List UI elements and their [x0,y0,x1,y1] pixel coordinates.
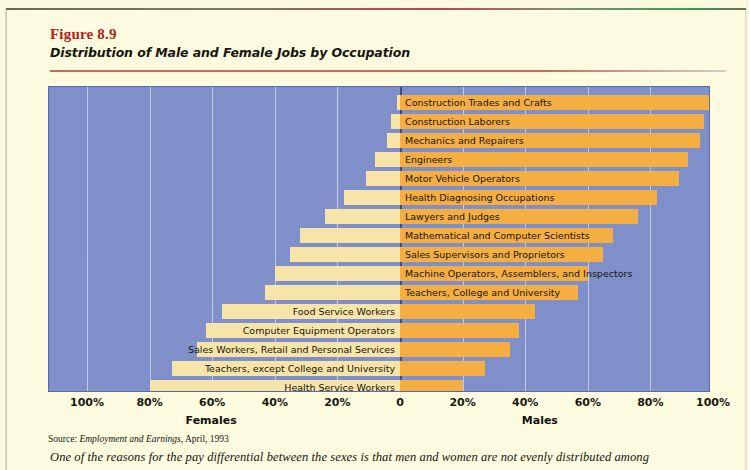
male-bar [400,323,519,338]
bar-category-label: Health Diagnosing Occupations [400,190,554,205]
chart-row: Engineers [49,150,709,169]
female-bar [366,171,400,186]
female-bar [344,190,400,205]
bar-category-label: Machine Operators, Assemblers, and Inspe… [400,266,632,281]
axis-label-males: Males [522,414,558,427]
top-decorative-rule [6,8,750,10]
chart-row: Lawyers and Judges [49,207,709,226]
chart-row: Construction Laborers [49,112,709,131]
figure-caption: One of the reasons for the pay different… [50,450,740,465]
chart-row: Sales Workers, Retail and Personal Servi… [49,340,709,359]
page-right-edge [746,0,750,470]
axis-label-females: Females [186,414,237,427]
chart-row: Machine Operators, Assemblers, and Inspe… [49,264,709,283]
bar-category-label: Sales Supervisors and Proprietors [400,247,565,262]
x-tick-f100: 100% [70,396,104,409]
chart-row: Construction Trades and Crafts [49,93,709,112]
male-bar [400,304,535,319]
x-tick-m80: 80% [637,396,663,409]
chart-row: Mechanics and Repairers [49,131,709,150]
female-bar [300,228,400,243]
female-bar [275,266,400,281]
x-tick-m40: 40% [512,396,538,409]
x-tick-f60: 60% [199,396,225,409]
bar-category-label: Teachers, College and University [400,285,560,300]
bar-category-label: Mechanics and Repairers [400,133,524,148]
chart-row: Sales Supervisors and Proprietors [49,245,709,264]
female-bar [265,285,400,300]
source-publication: Employment and Earnings, [79,434,183,444]
bar-category-label: Mathematical and Computer Scientists [400,228,590,243]
source-prefix: Source: [48,434,77,444]
x-tick-zero: 0 [396,396,404,409]
bar-category-label: Engineers [400,152,452,167]
x-tick-m60: 60% [575,396,601,409]
bar-category-label: Sales Workers, Retail and Personal Servi… [188,342,400,357]
chart-row: Food Service Workers [49,302,709,321]
male-bar [400,342,510,357]
bar-category-label: Health Service Workers [284,380,400,392]
bar-category-label: Teachers, except College and University [205,361,400,376]
bar-category-label: Food Service Workers [293,304,400,319]
female-bar [290,247,400,262]
figure-title: Distribution of Male and Female Jobs by … [50,45,410,60]
x-tick-f20: 20% [324,396,350,409]
bar-category-label: Motor Vehicle Operators [400,171,520,186]
x-axis-ticks: 100%80%60%40%20%020%40%60%80%100% [48,396,710,412]
female-bar [391,114,400,129]
chart-row: Computer Equipment Operators [49,321,709,340]
x-tick-m20: 20% [449,396,475,409]
chart-plot-area: Construction Trades and CraftsConstructi… [48,86,710,392]
male-bar [400,361,485,376]
chart-row: Mathematical and Computer Scientists [49,226,709,245]
female-bar [325,209,400,224]
chart-row: Health Service Workers [49,378,709,392]
x-tick-f40: 40% [262,396,288,409]
figure-page: Figure 8.9 Distribution of Male and Fema… [0,0,750,470]
chart-row: Teachers, College and University [49,283,709,302]
male-bar [400,380,463,392]
x-tick-f80: 80% [136,396,162,409]
chart-row: Teachers, except College and University [49,359,709,378]
header-rule [50,70,726,72]
bar-category-label: Construction Trades and Crafts [400,95,552,110]
x-tick-m100: 100% [696,396,730,409]
bar-category-label: Construction Laborers [400,114,510,129]
figure-number: Figure 8.9 [50,26,117,43]
bar-category-label: Lawyers and Judges [400,209,500,224]
female-bar [375,152,400,167]
source-date: April, 1993 [185,434,229,444]
source-line: Source: Employment and Earnings, April, … [48,434,229,444]
chart-row: Motor Vehicle Operators [49,169,709,188]
bar-category-label: Computer Equipment Operators [243,323,400,338]
female-bar [387,133,400,148]
chart-row: Health Diagnosing Occupations [49,188,709,207]
